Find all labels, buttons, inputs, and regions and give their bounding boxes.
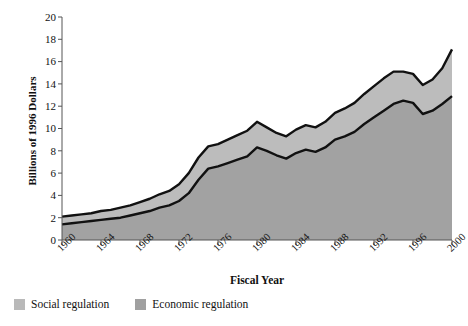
y-tick-label-2: 2: [30, 213, 56, 224]
legend-item-economic: Economic regulation: [135, 298, 248, 310]
y-tick-label-20: 20: [30, 12, 56, 23]
y-tick-label-16: 16: [30, 56, 56, 67]
legend-label-economic: Economic regulation: [152, 298, 248, 310]
y-tick-label-10: 10: [30, 123, 56, 134]
legend-item-social: Social regulation: [14, 298, 109, 310]
x-axis-title: Fiscal Year: [62, 274, 452, 286]
chart-figure: Billions of 1996 Dollars Fiscal Year 0 2…: [0, 0, 468, 326]
y-tick-label-0: 0: [30, 235, 56, 246]
dark-gray-swatch-icon: [135, 299, 146, 310]
y-tick-label-18: 18: [30, 34, 56, 45]
y-tick-label-12: 12: [30, 101, 56, 112]
y-axis-ticks: [58, 17, 62, 240]
light-gray-swatch-icon: [14, 299, 25, 310]
y-tick-label-4: 4: [30, 190, 56, 201]
y-tick-label-8: 8: [30, 146, 56, 157]
area-series-group: [62, 49, 452, 240]
y-tick-label-14: 14: [30, 79, 56, 90]
y-tick-label-6: 6: [30, 168, 56, 179]
chart-legend: Social regulation Economic regulation: [14, 298, 248, 310]
legend-label-social: Social regulation: [31, 298, 109, 310]
